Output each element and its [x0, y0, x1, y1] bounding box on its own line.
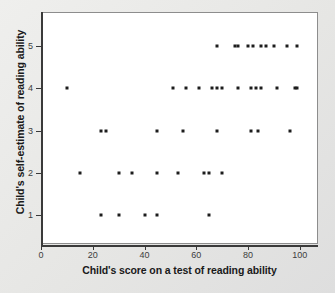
data-point	[249, 87, 252, 90]
data-point	[65, 87, 68, 90]
data-point	[216, 129, 219, 132]
data-point	[172, 87, 175, 90]
data-point	[208, 171, 211, 174]
scatter-plot-figure: 02040608010012345 Child's score on a tes…	[0, 0, 335, 293]
x-axis-title: Child's score on a test of reading abili…	[41, 264, 318, 276]
data-point	[260, 87, 263, 90]
data-point	[296, 44, 299, 47]
data-point	[260, 44, 263, 47]
data-points-layer	[0, 0, 335, 293]
data-point	[99, 214, 102, 217]
data-point	[236, 87, 239, 90]
data-point	[288, 129, 291, 132]
data-point	[99, 129, 102, 132]
data-point	[252, 44, 255, 47]
data-point	[156, 129, 159, 132]
data-point	[285, 44, 288, 47]
data-point	[236, 44, 239, 47]
data-point	[254, 87, 257, 90]
data-point	[156, 171, 159, 174]
data-point	[265, 44, 268, 47]
data-point	[275, 87, 278, 90]
data-point	[208, 214, 211, 217]
data-point	[257, 129, 260, 132]
data-point	[296, 87, 299, 90]
data-point	[104, 129, 107, 132]
data-point	[184, 87, 187, 90]
data-point	[177, 171, 180, 174]
data-point	[221, 171, 224, 174]
data-point	[130, 171, 133, 174]
data-point	[249, 129, 252, 132]
data-point	[216, 87, 219, 90]
data-point	[182, 129, 185, 132]
data-point	[247, 44, 250, 47]
data-point	[272, 44, 275, 47]
data-point	[78, 171, 81, 174]
data-point	[203, 171, 206, 174]
data-point	[117, 214, 120, 217]
data-point	[210, 87, 213, 90]
data-point	[221, 87, 224, 90]
data-point	[143, 214, 146, 217]
data-point	[117, 171, 120, 174]
data-point	[197, 87, 200, 90]
data-point	[156, 214, 159, 217]
y-axis-title: Child's self-estimate of reading ability	[14, 6, 26, 238]
data-point	[216, 44, 219, 47]
